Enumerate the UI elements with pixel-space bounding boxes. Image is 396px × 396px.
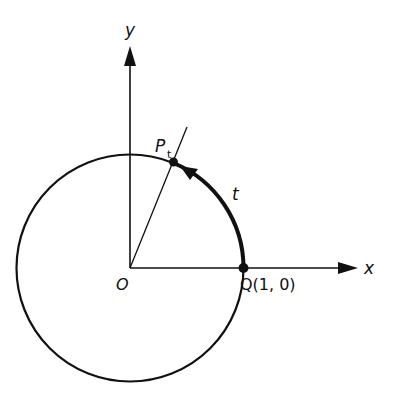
point-q-label: Q(1, 0) [240,275,296,294]
point-p-label: P [155,136,166,156]
point-p-subscript: t [167,148,172,161]
arc-t [174,163,244,268]
x-axis-label: x [363,258,375,278]
arc-label: t [232,184,240,204]
x-axis-arrow-icon [338,262,358,274]
diagram-svg: y x O P t t Q(1, 0) [0,0,396,396]
y-axis-arrow-icon [124,46,136,66]
origin-label: O [116,275,129,294]
point-q [239,263,249,273]
unit-circle-diagram: y x O P t t Q(1, 0) [0,0,396,396]
y-axis-label: y [124,20,136,40]
